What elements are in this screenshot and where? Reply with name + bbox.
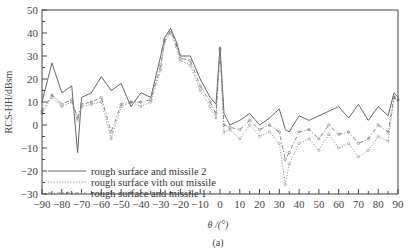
x-axis-ticks: −90−80−70−60−50−40−30−20−100102030405060… [33, 189, 404, 210]
y-tick-label: −10 [21, 142, 39, 154]
series-marker [278, 131, 280, 133]
x-tick-label: 90 [393, 198, 405, 210]
series-marker [337, 147, 339, 149]
y-tick-label: 50 [27, 4, 39, 16]
x-tick-label: −80 [53, 198, 71, 210]
legend-label: rough surface and missile 2 [91, 166, 206, 177]
x-tick-label: 50 [313, 198, 325, 210]
x-tick-label: 60 [333, 198, 345, 210]
x-tick-label: −20 [172, 198, 190, 210]
plot-lines [41, 28, 399, 186]
series-marker [328, 124, 330, 126]
x-tick-label: 30 [274, 198, 286, 210]
x-tick-label: −10 [192, 198, 210, 210]
x-tick-label: 70 [353, 198, 365, 210]
series-marker [357, 142, 359, 144]
series-marker [357, 156, 359, 158]
series-marker [377, 124, 379, 126]
series-line [42, 28, 398, 152]
x-tick-label: −50 [113, 198, 131, 210]
x-axis-label: θ /(°) [208, 219, 230, 231]
y-tick-label: 0 [33, 119, 39, 131]
x-tick-label: 10 [234, 198, 246, 210]
series-marker [100, 96, 102, 98]
y-tick-label: 30 [27, 50, 39, 62]
legend-label: rough surface and missile 1 [91, 188, 206, 199]
x-tick-label: −60 [93, 198, 111, 210]
x-tick-label: −40 [132, 198, 150, 210]
y-axis-label: RCS-HH/dBsm [3, 70, 14, 133]
x-tick-label: −70 [73, 198, 91, 210]
y-tick-label: −20 [21, 165, 39, 177]
series-marker [258, 135, 260, 137]
x-tick-label: −90 [33, 198, 51, 210]
x-tick-label: 0 [217, 198, 223, 210]
rcs-chart: −30−20−1001020304050 −90−80−70−60−50−40−… [0, 0, 411, 252]
y-tick-label: 10 [27, 96, 39, 108]
x-tick-label: −30 [152, 198, 170, 210]
series-marker [239, 128, 241, 130]
y-tick-label: 40 [27, 27, 39, 39]
x-tick-label: 20 [254, 198, 266, 210]
y-tick-label: 20 [27, 73, 39, 85]
y-axis-ticks: −30−20−1001020304050 [21, 4, 47, 200]
series-marker [110, 131, 112, 133]
x-tick-label: 40 [294, 198, 306, 210]
x-tick-label: 80 [373, 198, 385, 210]
figure-caption: (a) [212, 237, 223, 249]
legend-marker [66, 192, 69, 195]
legend-label: rough surface vith out missile [91, 177, 216, 188]
